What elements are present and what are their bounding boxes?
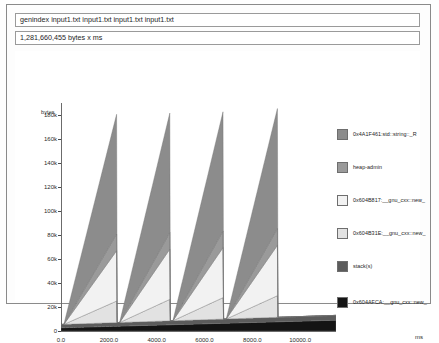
- x-tick-label: 8000.0: [243, 337, 261, 343]
- y-tick-mark: [58, 283, 61, 284]
- chart-legend: 0x4A1F461:std::string::_Rheap-admin0x604…: [337, 121, 439, 321]
- y-tick-label: 100k: [35, 208, 57, 214]
- x-tick-label: 2000.0: [100, 337, 118, 343]
- legend-color-swatch: [337, 162, 348, 173]
- window-frame: genindex input1.txt input1.txt input1.tx…: [6, 4, 431, 304]
- y-tick-label: 20k: [35, 304, 57, 310]
- legend-item-label: heap-admin: [353, 164, 382, 170]
- y-tick-label: 140k: [35, 160, 57, 166]
- x-tick-label: 6000.0: [195, 337, 213, 343]
- y-tick-mark: [58, 235, 61, 236]
- legend-item-label: 0x604AFCA:__gnu_cxx::new_: [353, 299, 427, 305]
- y-tick-label: 60k: [35, 256, 57, 262]
- x-tick-label: 10000.0: [289, 337, 311, 343]
- y-tick-mark: [58, 259, 61, 260]
- y-tick-label: 40k: [35, 280, 57, 286]
- legend-color-swatch: [337, 297, 348, 308]
- legend-color-swatch: [337, 195, 348, 206]
- y-tick-mark: [58, 115, 61, 116]
- chart-title-bar: genindex input1.txt input1.txt input1.tx…: [15, 13, 420, 27]
- y-tick-label: 80k: [35, 232, 57, 238]
- legend-color-swatch: [337, 228, 348, 239]
- legend-item-label: stack(s): [353, 263, 372, 269]
- y-tick-mark: [58, 187, 61, 188]
- y-tick-mark: [58, 139, 61, 140]
- legend-item-label: 0x604B31E:__gnu_cxx::new_: [353, 230, 426, 236]
- legend-item-label: 0x604B817:__gnu_cxx::new_: [353, 197, 425, 203]
- chart-subtitle-bar: 1,281,660,455 bytes x ms: [15, 31, 420, 45]
- y-axis-ticks: 020k40k60k80k100k120k140k160k180k: [33, 51, 57, 301]
- y-tick-mark: [58, 331, 61, 332]
- legend-item-label: 0x4A1F461:std::string::_R: [353, 131, 417, 137]
- legend-color-swatch: [337, 261, 348, 272]
- y-tick-label: 120k: [35, 184, 57, 190]
- x-axis-unit-label: ms: [415, 334, 423, 340]
- plot-area: bytes ms 020k40k60k80k100k120k140k160k18…: [15, 51, 420, 301]
- y-tick-mark: [58, 211, 61, 212]
- legend-color-swatch: [337, 129, 348, 140]
- y-tick-label: 0: [35, 328, 57, 334]
- y-tick-label: 160k: [35, 136, 57, 142]
- y-tick-mark: [58, 163, 61, 164]
- y-tick-mark: [58, 307, 61, 308]
- x-axis-line: [61, 331, 336, 332]
- x-tick-label: 4000.0: [147, 337, 165, 343]
- y-tick-label: 180k: [35, 112, 57, 118]
- x-tick-label: 0.0: [57, 337, 65, 343]
- stacked-area-chart: [61, 103, 336, 331]
